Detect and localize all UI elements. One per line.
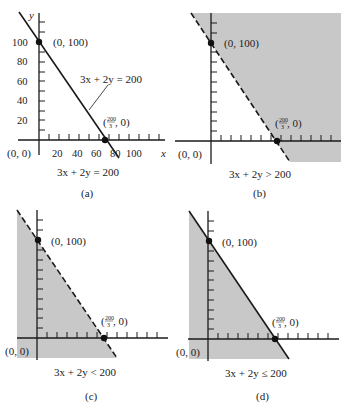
y-intercept-point (206, 238, 212, 244)
x-tick-label-40: 40 (72, 148, 83, 159)
line-equation-label: 3x + 2y = 200 (80, 73, 142, 85)
x-intercept-label: ( 200 3 , 0) (101, 315, 128, 328)
shaded-region (191, 13, 341, 162)
y-intercept-point (35, 237, 41, 243)
y-intercept-label: (0, 100) (51, 235, 86, 248)
x-tick-label-100: 100 (126, 148, 142, 159)
svg-text:, 0): , 0) (115, 116, 130, 129)
svg-text:3: 3 (278, 323, 281, 329)
y-axis-ticks (39, 22, 45, 130)
panel-equation: 3x + 2y ≤ 200 (225, 367, 287, 379)
y-intercept-label: (0, 100) (222, 236, 257, 249)
svg-text:3: 3 (107, 322, 110, 328)
y-intercept-point (36, 39, 42, 45)
origin-label: (0, 0) (5, 345, 29, 358)
panel-c: (0, 0) (0, 100) ( 200 3 , 0) 3x + 2y < 2… (5, 210, 168, 403)
svg-text:3: 3 (281, 124, 284, 130)
panel-b: (0, 0) (0, 100) ( 200 3 , 0) 3x + 2y > 2… (175, 13, 341, 200)
y-tick-label-20: 20 (17, 115, 28, 126)
panel-caption: (c) (85, 390, 98, 403)
panel-equation: 3x + 2y > 200 (229, 168, 291, 180)
origin-label: (0, 0) (7, 147, 31, 160)
y-tick-label-80: 80 (17, 56, 28, 67)
label-pointer (89, 85, 108, 110)
panel-a: y x 100 80 60 40 20 20 40 60 80 100 (0, … (7, 9, 166, 200)
svg-text:, 0): , 0) (113, 315, 128, 328)
panel-equation: 3x + 2y < 200 (54, 366, 116, 378)
x-tick-label-60: 60 (91, 148, 102, 159)
x-tick-label-80: 80 (110, 148, 121, 159)
x-tick-label-20: 20 (52, 148, 63, 159)
x-intercept-point (102, 137, 108, 143)
panel-caption: (b) (253, 187, 266, 200)
svg-text:3: 3 (109, 123, 112, 129)
panel-d: (0, 0) (0, 100) ( 200 3 , 0) 3x + 2y ≤ 2… (176, 211, 339, 403)
x-intercept-point (101, 335, 107, 341)
panel-caption: (a) (81, 187, 94, 200)
origin-label: (0, 0) (176, 346, 200, 359)
origin-label: (0, 0) (178, 148, 202, 161)
x-intercept-point (272, 336, 278, 342)
x-intercept-label: ( 200 3 , 0) (272, 316, 299, 329)
linear-inequality-figure: y x 100 80 60 40 20 20 40 60 80 100 (0, … (0, 0, 351, 411)
y-axis-label: y (28, 9, 34, 21)
y-tick-label-100: 100 (12, 37, 28, 48)
y-intercept-label: (0, 100) (53, 36, 88, 49)
svg-text:, 0): , 0) (287, 117, 302, 130)
x-intercept-point (274, 138, 280, 144)
panel-equation: 3x + 2y = 200 (57, 166, 119, 178)
y-intercept-point (208, 40, 214, 46)
y-intercept-label: (0, 100) (224, 37, 259, 50)
x-axis-label: x (160, 147, 166, 159)
y-tick-label-60: 60 (17, 76, 28, 87)
svg-text:, 0): , 0) (284, 316, 299, 329)
panel-caption: (d) (256, 390, 269, 403)
y-tick-label-40: 40 (17, 95, 28, 106)
x-intercept-label: ( 200 3 , 0) (103, 116, 130, 129)
